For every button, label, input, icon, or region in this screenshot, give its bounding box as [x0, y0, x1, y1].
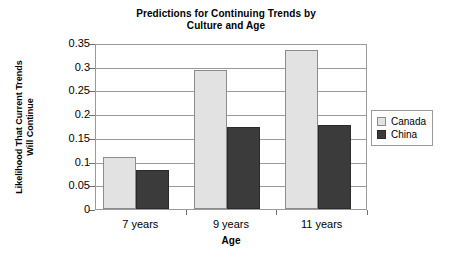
y-axis-title-line-2: Will Continue	[25, 60, 36, 194]
y-axis-title: Likelihood That Current Trends Will Cont…	[14, 44, 36, 210]
legend-label: Canada	[391, 116, 426, 127]
bar-canada-11-years	[285, 50, 318, 209]
gridline	[96, 115, 366, 116]
y-tick-label: 0.2	[44, 109, 90, 120]
y-tick-label: 0	[44, 204, 90, 215]
y-axis-title-line-1: Likelihood That Current Trends	[14, 60, 24, 194]
legend: CanadaChina	[371, 110, 433, 146]
x-category-label: 11 years	[276, 218, 367, 230]
x-tick-mark	[276, 210, 277, 215]
gridline	[96, 91, 366, 92]
legend-swatch-canada-icon	[377, 117, 386, 126]
x-tick-mark	[186, 210, 187, 215]
bar-canada-7-years	[103, 157, 136, 209]
legend-item-canada[interactable]: Canada	[377, 115, 426, 128]
x-category-label: 9 years	[186, 218, 277, 230]
bar-china-11-years	[318, 125, 351, 209]
gridline	[96, 68, 366, 69]
bar-china-7-years	[136, 170, 169, 209]
y-tick-label: 0.35	[44, 38, 90, 49]
bar-canada-9-years	[194, 70, 227, 209]
chart-title-line-1: Predictions for Continuing Trends by	[136, 8, 316, 19]
legend-item-china[interactable]: China	[377, 128, 426, 141]
legend-label: China	[391, 129, 417, 140]
x-tick-mark	[367, 210, 368, 215]
y-tick-label: 0.05	[44, 180, 90, 191]
x-category-label: 7 years	[95, 218, 186, 230]
bar-china-9-years	[227, 127, 260, 209]
y-tick-label: 0.25	[44, 85, 90, 96]
plot-area	[95, 44, 367, 210]
x-axis-title: Age	[95, 235, 367, 246]
chart-title-line-2: Culture and Age	[0, 20, 452, 32]
y-tick-label: 0.15	[44, 133, 90, 144]
y-tick-label: 0.1	[44, 157, 90, 168]
y-tick-label: 0.3	[44, 62, 90, 73]
chart-title: Predictions for Continuing Trends by Cul…	[0, 8, 452, 32]
legend-swatch-china-icon	[377, 130, 386, 139]
